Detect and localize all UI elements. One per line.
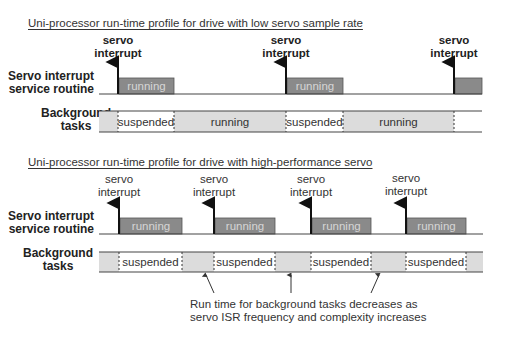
caption-arrows [206, 275, 379, 293]
bg-segment-running [99, 252, 119, 272]
bg-segment-running [371, 252, 406, 272]
bg-segment-suspended [454, 111, 482, 132]
bg-segment-label: suspended [286, 116, 342, 128]
isr-running-label: running [226, 220, 264, 232]
isr-running-label: running [127, 80, 165, 92]
bg-segment-label: running [379, 116, 417, 128]
bg-segment-label: suspended [216, 256, 272, 268]
isr-running-box [455, 78, 482, 94]
bg-segment-running [99, 111, 118, 132]
top-timeline: suspendedrunningsuspendedrunningrunningr… [99, 62, 482, 132]
bg-segment-running [275, 252, 311, 272]
bg-segment-running [466, 252, 483, 272]
bg-segment-label: suspended [408, 256, 464, 268]
isr-running-label: running [322, 220, 360, 232]
bg-segment-label: suspended [118, 116, 174, 128]
bg-segment-label: suspended [313, 256, 369, 268]
isr-running-label: running [132, 220, 170, 232]
run-time-profile-diagram: Uni-processor run-time profile for drive… [0, 0, 506, 342]
bg-segment-label: suspended [122, 256, 178, 268]
isr-running-label: running [296, 80, 334, 92]
timeline-graphics: suspendedrunningsuspendedrunningrunningr… [0, 0, 506, 342]
bg-segment-running [182, 252, 214, 272]
bottom-timeline: suspendedsuspendedsuspendedsuspendedrunn… [99, 203, 483, 272]
isr-running-label: running [417, 220, 455, 232]
bg-segment-label: running [211, 116, 249, 128]
